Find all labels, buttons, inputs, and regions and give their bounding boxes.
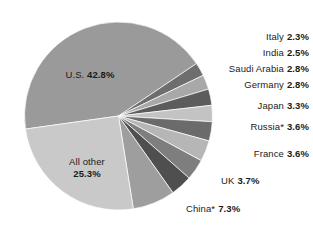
pie-slice-group xyxy=(24,22,212,210)
pie-chart: U.S. 42.8% All other 25.3% Italy2.3% Ind… xyxy=(0,0,313,232)
pie-callout-italy-name: Italy xyxy=(266,31,284,42)
pie-callout-france: France3.6% xyxy=(254,148,309,159)
pie-callout-russia-name: Russia* xyxy=(251,121,284,132)
pie-callout-italy-value: 2.3% xyxy=(287,31,309,42)
pie-callout-india: India2.5% xyxy=(263,47,309,58)
pie-callout-uk-name: UK xyxy=(221,175,234,186)
pie-callout-china-name: China* xyxy=(186,203,215,214)
pie-callout-japan-name: Japan xyxy=(258,100,284,111)
pie-callout-saudi-arabia: Saudi Arabia2.8% xyxy=(229,63,309,74)
pie-callout-russia: Russia*3.6% xyxy=(251,121,310,132)
pie-callout-uk: UK3.7% xyxy=(221,175,259,186)
pie-callout-saudi-arabia-name: Saudi Arabia xyxy=(229,63,284,74)
pie-callout-germany-name: Germany xyxy=(244,79,284,90)
pie-callout-uk-value: 3.7% xyxy=(237,175,259,186)
pie-callout-saudi-arabia-value: 2.8% xyxy=(287,63,309,74)
pie-callout-germany-value: 2.8% xyxy=(287,79,309,90)
pie-label-us: U.S. 42.8% xyxy=(44,69,136,81)
pie-callout-india-value: 2.5% xyxy=(287,47,309,58)
pie-label-us-name: U.S. xyxy=(65,69,84,80)
pie-callout-france-value: 3.6% xyxy=(287,148,309,159)
pie-label-all-other-value: 25.3% xyxy=(44,168,130,180)
pie-callout-russia-value: 3.6% xyxy=(287,121,309,132)
pie-callout-china-value: 7.3% xyxy=(218,203,240,214)
pie-callout-italy: Italy2.3% xyxy=(266,31,309,42)
pie-callout-germany: Germany2.8% xyxy=(244,79,309,90)
pie-callout-japan-value: 3.3% xyxy=(287,100,309,111)
pie-label-us-value: 42.8% xyxy=(87,69,114,80)
pie-label-all-other: All other 25.3% xyxy=(44,156,130,179)
pie-callout-india-name: India xyxy=(263,47,284,58)
pie-callout-china: China*7.3% xyxy=(186,203,240,214)
pie-callout-japan: Japan3.3% xyxy=(258,100,309,111)
pie-label-all-other-name: All other xyxy=(44,156,130,168)
pie-callout-france-name: France xyxy=(254,148,284,159)
